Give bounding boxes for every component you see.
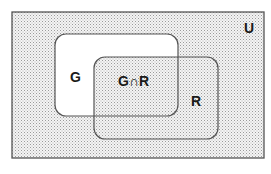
set-r-label: R: [191, 93, 201, 109]
set-g-label: G: [70, 69, 81, 85]
venn-diagram: U G G∩R R: [0, 0, 271, 174]
universe-label: U: [244, 20, 254, 36]
intersection-label: G∩R: [118, 73, 149, 89]
